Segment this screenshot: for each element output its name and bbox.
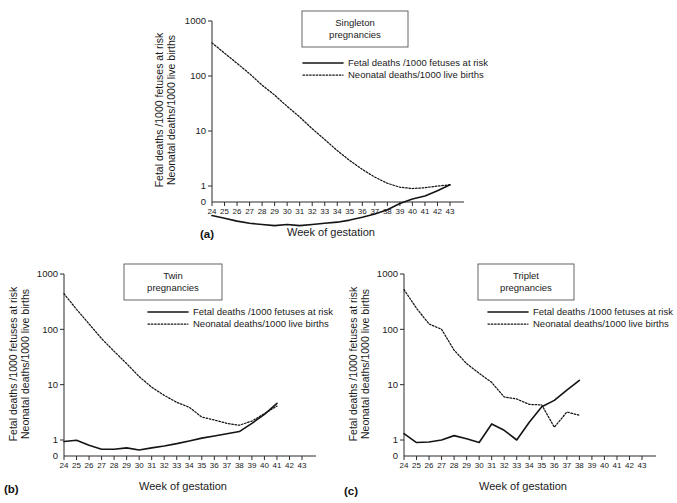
x-tick-label: 37 — [222, 461, 231, 470]
legend-dotted-label: Neonatal deaths/1000 live births — [193, 318, 329, 329]
x-axis-title: Week of gestation — [139, 480, 227, 492]
series-fetal-deaths — [212, 185, 450, 226]
x-tick-label: 42 — [433, 207, 442, 216]
chart-a: 1000100101024252627282930313233343536373… — [0, 0, 520, 250]
x-tick-label: 25 — [220, 207, 229, 216]
axis-lines — [212, 21, 464, 202]
x-tick-label: 26 — [425, 461, 434, 470]
y-tick-label: 1000 — [377, 268, 398, 279]
y-tick-label: 1 — [393, 434, 398, 445]
x-tick-label: 28 — [110, 461, 119, 470]
x-tick-label: 33 — [320, 207, 329, 216]
panel-title-line1: Triplet — [513, 270, 539, 281]
panel-title-line2: pregnancies — [500, 282, 552, 293]
x-tick-label: 35 — [197, 461, 206, 470]
y-axis-title-line2: Neonatal deaths/1000 live births — [165, 35, 177, 185]
x-tick-label: 38 — [575, 461, 584, 470]
panel-label-b: (b) — [4, 483, 19, 495]
x-tick-label: 29 — [462, 461, 471, 470]
series-fetal-deaths — [64, 403, 277, 450]
y-tick-label-zero: 0 — [393, 450, 398, 461]
x-tick-label: 25 — [412, 461, 421, 470]
y-axis-title-line2: Neonatal deaths/1000 live births — [359, 289, 371, 439]
x-tick-label: 31 — [295, 207, 304, 216]
x-tick-label: 41 — [612, 461, 621, 470]
x-tick-label: 40 — [408, 207, 417, 216]
legend-solid-label: Fetal deaths /1000 fetuses at risk — [533, 306, 673, 317]
axis-lines — [404, 274, 656, 456]
x-tick-label: 33 — [172, 461, 181, 470]
x-tick-label: 42 — [625, 461, 634, 470]
x-tick-label: 25 — [72, 461, 81, 470]
x-tick-label: 29 — [122, 461, 131, 470]
x-tick-label: 39 — [587, 461, 596, 470]
series-fetal-deaths — [404, 380, 579, 442]
y-tick-label: 1000 — [185, 15, 206, 26]
x-tick-label: 36 — [210, 461, 219, 470]
legend-dotted-label: Neonatal deaths/1000 live births — [348, 69, 484, 80]
x-tick-label: 41 — [420, 207, 429, 216]
chart-c: 1000100101024252627282930313233343536373… — [338, 252, 677, 503]
y-tick-label: 1 — [53, 434, 58, 445]
panel-label-c: (c) — [344, 485, 358, 497]
y-tick-label: 100 — [190, 70, 206, 81]
panel-label-a: (a) — [200, 228, 214, 240]
x-tick-label: 34 — [185, 461, 194, 470]
x-tick-label: 31 — [487, 461, 496, 470]
x-tick-label: 38 — [235, 461, 244, 470]
x-tick-label: 24 — [208, 207, 217, 216]
x-tick-label: 36 — [550, 461, 559, 470]
y-tick-label: 10 — [387, 379, 398, 390]
panel-title-line2: pregnancies — [147, 282, 199, 293]
x-tick-label: 27 — [245, 207, 254, 216]
y-tick-label-zero: 0 — [53, 450, 58, 461]
x-tick-label: 43 — [446, 207, 455, 216]
x-tick-label: 32 — [500, 461, 509, 470]
x-tick-label: 24 — [60, 461, 69, 470]
chart-panel-twin: 1000100101024252627282930313233343536373… — [0, 252, 345, 503]
x-tick-label: 28 — [450, 461, 459, 470]
x-tick-label: 40 — [260, 461, 269, 470]
x-tick-label: 42 — [285, 461, 294, 470]
y-axis-title-line1: Fetal deaths /1000 fetuses at risk — [153, 32, 165, 187]
x-tick-label: 26 — [233, 207, 242, 216]
x-tick-label: 33 — [512, 461, 521, 470]
x-tick-label: 35 — [345, 207, 354, 216]
chart-panel-singleton: 1000100101024252627282930313233343536373… — [0, 0, 520, 250]
chart-panel-triplet: 1000100101024252627282930313233343536373… — [338, 252, 677, 503]
x-tick-label: 32 — [160, 461, 169, 470]
x-axis-title: Week of gestation — [287, 226, 375, 238]
x-tick-label: 36 — [358, 207, 367, 216]
x-tick-label: 37 — [562, 461, 571, 470]
x-tick-label: 31 — [147, 461, 156, 470]
chart-b: 1000100101024252627282930313233343536373… — [0, 252, 345, 503]
x-tick-label: 39 — [247, 461, 256, 470]
x-tick-label: 26 — [85, 461, 94, 470]
x-tick-label: 30 — [283, 207, 292, 216]
x-tick-label: 34 — [525, 461, 534, 470]
x-tick-label: 28 — [258, 207, 267, 216]
y-tick-label: 1 — [201, 180, 206, 191]
panel-title-line1: Twin — [163, 270, 183, 281]
x-tick-label: 29 — [270, 207, 279, 216]
x-tick-label: 40 — [600, 461, 609, 470]
x-tick-label: 24 — [400, 461, 409, 470]
y-tick-label: 100 — [382, 324, 398, 335]
y-tick-label: 10 — [195, 125, 206, 136]
y-tick-label: 1000 — [37, 268, 58, 279]
y-axis-title-line2: Neonatal deaths/1000 live births — [19, 289, 31, 439]
x-tick-label: 27 — [97, 461, 106, 470]
x-tick-label: 35 — [537, 461, 546, 470]
x-tick-label: 32 — [308, 207, 317, 216]
y-tick-label: 10 — [47, 379, 58, 390]
x-tick-label: 39 — [395, 207, 404, 216]
axis-lines — [64, 274, 316, 456]
panel-title-line2: pregnancies — [329, 29, 381, 40]
panel-title-line1: Singleton — [335, 17, 375, 28]
x-tick-label: 43 — [298, 461, 307, 470]
y-tick-label: 100 — [42, 324, 58, 335]
legend-solid-label: Fetal deaths /1000 fetuses at risk — [348, 57, 488, 68]
x-tick-label: 43 — [638, 461, 647, 470]
x-tick-label: 30 — [135, 461, 144, 470]
x-axis-title: Week of gestation — [479, 480, 567, 492]
